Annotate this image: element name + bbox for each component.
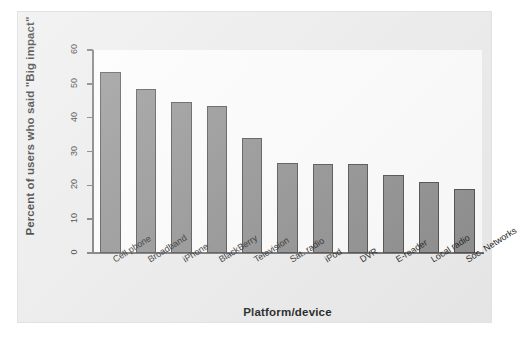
bar <box>100 72 121 253</box>
scanned-page-panel: Percent of users who said "Big impact" 0… <box>18 12 491 322</box>
y-axis-tick-label: 0 <box>69 242 79 262</box>
bar <box>171 102 192 253</box>
y-axis-tick-label: 20 <box>69 174 79 194</box>
y-axis-tick-label: 30 <box>69 141 79 161</box>
y-axis-tick-label: 50 <box>69 73 79 93</box>
y-axis-tick-label: 40 <box>69 107 79 127</box>
bar <box>348 164 369 253</box>
y-axis-tick-label: 60 <box>69 39 79 59</box>
bar-series <box>93 50 482 253</box>
x-axis-title: Platform/device <box>93 306 482 318</box>
bar <box>207 106 228 253</box>
bar <box>383 175 404 253</box>
bar <box>136 89 157 253</box>
y-axis-tick-label: 10 <box>69 208 79 228</box>
y-axis-title: Percent of users who said "Big impact" <box>24 0 36 296</box>
